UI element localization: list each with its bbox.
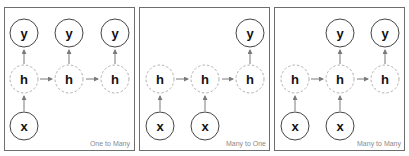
svg-text:y: y <box>20 26 28 41</box>
svg-text:y: y <box>381 26 389 41</box>
svg-text:h: h <box>246 72 254 87</box>
panel-one-to-many: y y y h h h x One to Many <box>5 8 135 151</box>
svg-text:h: h <box>291 72 299 87</box>
svg-text:h: h <box>201 72 209 87</box>
svg-text:x: x <box>291 119 299 134</box>
svg-text:y: y <box>65 26 73 41</box>
svg-text:h: h <box>65 72 73 87</box>
hidden-state-node: h <box>326 65 354 93</box>
svg-text:x: x <box>336 119 344 134</box>
output-node: y <box>101 19 129 47</box>
input-node: x <box>191 112 219 140</box>
svg-text:h: h <box>381 72 389 87</box>
hidden-state-node: h <box>371 65 399 93</box>
svg-text:x: x <box>156 119 164 134</box>
svg-text:x: x <box>201 119 209 134</box>
output-node: y <box>10 19 38 47</box>
svg-text:y: y <box>246 26 254 41</box>
svg-text:h: h <box>20 72 28 87</box>
output-node: y <box>236 19 264 47</box>
input-node: x <box>281 112 309 140</box>
input-node: x <box>146 112 174 140</box>
hidden-state-node: h <box>281 65 309 93</box>
input-node: x <box>326 112 354 140</box>
hidden-state-node: h <box>10 65 38 93</box>
hidden-state-node: h <box>191 65 219 93</box>
output-node: y <box>55 19 83 47</box>
panel-caption: Many to Many <box>357 140 401 148</box>
svg-text:y: y <box>336 26 344 41</box>
output-node: y <box>371 19 399 47</box>
svg-text:h: h <box>111 72 119 87</box>
svg-text:h: h <box>156 72 164 87</box>
hidden-state-node: h <box>55 65 83 93</box>
hidden-state-node: h <box>236 65 264 93</box>
panel-many-to-one: y h h h x x Many to One <box>140 8 270 151</box>
output-node: y <box>326 19 354 47</box>
panel-many-to-many: y y h h h x x Many to Many <box>275 8 405 151</box>
svg-text:y: y <box>111 26 119 41</box>
input-node: x <box>10 112 38 140</box>
rnn-architectures-diagram: y y y h h h x One to Many y h h h x x Ma… <box>0 0 409 156</box>
hidden-state-node: h <box>101 65 129 93</box>
hidden-state-node: h <box>146 65 174 93</box>
panel-caption: One to Many <box>90 140 131 148</box>
svg-text:h: h <box>336 72 344 87</box>
panel-caption: Many to One <box>226 140 266 148</box>
svg-text:x: x <box>20 119 28 134</box>
